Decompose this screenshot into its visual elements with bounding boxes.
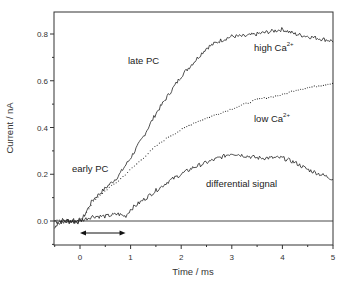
low-ca-dot [109, 187, 110, 188]
low-ca-dot [282, 94, 283, 95]
low-ca-dot [188, 125, 189, 126]
low-ca-dot [54, 220, 55, 221]
low-ca-dot [102, 193, 103, 194]
low-ca-dot [170, 135, 171, 136]
x-tick-label: 2 [179, 253, 184, 262]
low-ca-dot [111, 185, 112, 186]
low-ca-dot [250, 102, 251, 103]
low-ca-dot [259, 98, 260, 99]
low-ca-dot [195, 122, 196, 123]
low-ca-dot [200, 120, 201, 121]
low-ca-dot [184, 127, 185, 128]
low-ca-dot [186, 126, 187, 127]
low-ca-dot [248, 103, 249, 104]
low-ca-dot [209, 117, 210, 118]
low-ca-dot [148, 153, 149, 154]
low-ca-dot [97, 196, 98, 197]
low-ca-dot [104, 190, 105, 191]
low-ca-dot [141, 159, 142, 160]
low-ca-dot [91, 205, 92, 206]
low-ca-dot [150, 150, 151, 151]
low-ca-dot [59, 219, 60, 220]
low-ca-dot [159, 143, 160, 144]
low-ca-dot [302, 89, 303, 90]
low-ca-dot [232, 109, 233, 110]
low-ca-dot [305, 88, 306, 89]
low-ca-dot [216, 114, 217, 115]
axis-ticks: 0123450.00.20.40.60.8 [37, 30, 336, 262]
low-ca-dot [298, 89, 299, 90]
arrow-head-right [120, 231, 126, 236]
low-ca-dot [63, 219, 64, 220]
low-ca-dot [227, 110, 228, 111]
low-ca-dot [154, 146, 155, 147]
low-ca-dot [245, 102, 246, 103]
low-ca-dot [296, 90, 297, 91]
low-ca-dot [88, 208, 89, 209]
low-ca-dot [120, 178, 121, 179]
low-ca-dot [145, 156, 146, 157]
low-ca-dot [118, 180, 119, 181]
low-ca-dot [327, 84, 328, 85]
low-ca-dot [211, 116, 212, 117]
low-ca-dot [214, 115, 215, 116]
low-ca-dot [264, 97, 265, 98]
low-ca-dot [127, 172, 128, 173]
low-ca-dot [241, 104, 242, 105]
low-ca-text: low Ca [254, 113, 284, 124]
low-ca-dot [202, 119, 203, 120]
chart: 0123450.00.20.40.60.8 Time / ms Current … [0, 0, 345, 287]
low-ca-dot [223, 111, 224, 112]
data-series [54, 28, 333, 229]
arrow-head-left [80, 231, 86, 236]
y-tick-label: 0.0 [37, 217, 49, 226]
low-ca-dot [182, 128, 183, 129]
low-ca-dot [132, 167, 133, 168]
x-tick-label: 3 [230, 253, 235, 262]
low-ca-dot [314, 85, 315, 86]
low-ca-dot [84, 216, 85, 217]
x-axis-title: Time / ms [172, 266, 214, 277]
low-ca-dot [266, 98, 267, 99]
low-ca-dot [198, 121, 199, 122]
y-tick-label: 0.2 [37, 170, 49, 179]
low-ca-dot [113, 184, 114, 185]
low-ca-dot [255, 99, 256, 100]
annotation-late-pc: late PC [128, 55, 159, 66]
low-ca-dot [273, 97, 274, 98]
low-ca-dot [323, 85, 324, 86]
low-ca-dot [129, 169, 130, 170]
low-ca-dot [239, 106, 240, 107]
low-ca-dot [56, 220, 57, 221]
low-ca-dot [316, 86, 317, 87]
low-ca-dot [318, 85, 319, 86]
low-ca-dot [77, 220, 78, 221]
low-ca-dot [229, 109, 230, 110]
low-ca-dot [157, 145, 158, 146]
high-ca-trace [55, 28, 333, 225]
low-ca-dot [136, 163, 137, 164]
low-ca-dot [191, 124, 192, 125]
low-ca-dot [66, 220, 67, 221]
low-ca-dot [300, 89, 301, 90]
low-ca-dot [293, 91, 294, 92]
low-ca-dot [280, 95, 281, 96]
low-ca-dot [311, 86, 312, 87]
double-arrow-icon [80, 231, 126, 236]
x-tick-label: 0 [78, 253, 83, 262]
low-ca-dot [161, 141, 162, 142]
y-tick-label: 0.8 [37, 30, 49, 39]
low-ca-dot [179, 130, 180, 131]
y-tick-label: 0.6 [37, 77, 49, 86]
low-ca-dot [284, 93, 285, 94]
low-ca-dot [332, 83, 333, 84]
low-ca-dot [225, 111, 226, 112]
low-ca-dot [261, 98, 262, 99]
low-ca-dot [122, 176, 123, 177]
low-ca-dot [95, 199, 96, 200]
low-ca-dot [252, 100, 253, 101]
low-ca-dot [177, 131, 178, 132]
low-ca-dot [277, 95, 278, 96]
low-ca-dot [275, 95, 276, 96]
low-ca-dot [143, 158, 144, 159]
